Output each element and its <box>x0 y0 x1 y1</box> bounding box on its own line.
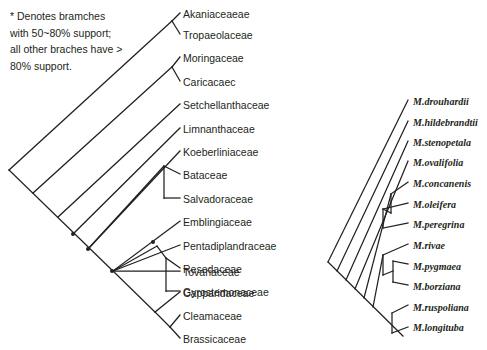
support-marker-1 <box>71 232 75 236</box>
tip-label-tovariaceae: Tovariaceae <box>183 267 240 278</box>
tip-label-m-ovalifolia: M.ovalifolia <box>413 157 463 168</box>
left-branch-reseda-clade <box>113 246 157 271</box>
left-branch-cleome-clade <box>155 312 170 327</box>
left-branch-moringaceae <box>172 57 180 67</box>
right-branch-oleifera <box>383 203 408 209</box>
right-branch-rivae <box>383 244 408 255</box>
left-branch-cleamaceae <box>170 315 180 327</box>
tip-label-m-pygmaea: M.pygmaea <box>413 261 461 272</box>
left-branch-brassicaceae <box>170 327 180 338</box>
right-branch-rivae-clade-stem <box>373 255 383 307</box>
tip-label-salvadoraceae: Salvadoraceae <box>183 194 253 205</box>
tip-label-limnanthaceae: Limnanthaceae <box>183 124 255 135</box>
tip-label-m-concanenis: M.concanenis <box>413 178 471 189</box>
right-branch-ruspoliana <box>392 305 408 313</box>
tip-label-m-hildebrandtii: M.hildebrandtii <box>413 117 478 128</box>
support-marker-3 <box>110 269 114 273</box>
right-branch-drouhardii <box>328 100 408 262</box>
left-branch-resedaceae <box>166 258 180 268</box>
tip-label-capparidaceae: Capparidaceae <box>183 288 254 299</box>
tip-label-tropaeolaceae: Tropaeolaceae <box>183 30 253 41</box>
tip-label-moringaceae: Moringaceae <box>183 53 244 64</box>
tip-label-m-ruspoliana: M.ruspoliana <box>413 302 469 313</box>
support-marker-4 <box>151 240 155 244</box>
left-branch-emblingiaceae <box>113 221 180 271</box>
right-branch-concanenis <box>391 182 408 194</box>
left-branch-setchellanthaceae <box>58 104 180 217</box>
tip-label-setchellanthaceae: Setchellanthaceae <box>183 100 269 111</box>
left-branch-akaniaceaeae <box>172 13 180 21</box>
left-branch-pentadiplandraceae <box>113 245 180 271</box>
tip-label-pentadiplandraceae: Pentadiplandraceae <box>183 241 276 252</box>
tip-label-bataceae: Bataceae <box>183 170 227 181</box>
left-branch-tropaeolaceae <box>172 21 180 34</box>
right-tree-branches <box>328 100 408 336</box>
tip-label-m-longituba: M.longituba <box>413 322 464 333</box>
left-branch-akania-clade <box>9 21 172 170</box>
figure-canvas: * Denotes bramches with 50~80% support; … <box>0 0 487 350</box>
tip-label-m-rivae: M.rivae <box>413 240 445 251</box>
right-branch-borziana <box>393 282 408 285</box>
tip-label-emblingiaceae: Emblingiaceae <box>183 217 252 228</box>
tip-label-cleamaceae: Cleamaceae <box>183 311 242 322</box>
left-branch-capparidaceae <box>155 292 180 312</box>
tip-label-akaniaceaeae: Akaniaceaeae <box>183 9 250 20</box>
left-branch-bataceae <box>164 166 180 174</box>
tip-label-m-drouhardii: M.drouhardii <box>413 96 469 107</box>
tip-label-m-stenopetala: M.stenopetala <box>413 137 471 148</box>
right-branch-pygmaea-stem <box>383 271 393 275</box>
tip-label-m-borziana: M.borziana <box>413 281 461 292</box>
tip-label-m-oleifera: M.oleifera <box>413 199 456 210</box>
right-branch-pygmaea <box>393 261 408 264</box>
tip-label-caricacaec: Caricacaec <box>183 77 236 88</box>
left-branch-brassica-clade <box>113 271 155 312</box>
right-branch-peregrina <box>383 223 408 228</box>
left-branch-caricacaec <box>172 67 180 81</box>
left-tree-branches <box>9 13 180 338</box>
tip-label-brassicaceae: Brassicaceae <box>183 334 246 345</box>
tip-label-koeberliniaceae: Koeberliniaceae <box>183 147 258 158</box>
tip-label-m-peregrina: M.peregrina <box>413 219 464 230</box>
left-spine-root <box>9 170 113 271</box>
left-branch-reseda-stem <box>157 246 166 258</box>
support-marker-2 <box>86 247 90 251</box>
